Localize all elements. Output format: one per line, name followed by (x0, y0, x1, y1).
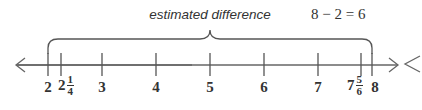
tick-label-8: 8 (371, 80, 379, 95)
brace (48, 30, 372, 54)
tick-label-5: 5 (206, 80, 214, 95)
tick-label-7-5-6: 7 56 (347, 74, 363, 97)
less-than-glyph (405, 56, 420, 72)
tick-label-2: 2 (44, 80, 52, 95)
tick-label-2-1-4: 2 14 (58, 74, 74, 97)
tick-label-3: 3 (98, 80, 106, 95)
caption-estimated-difference: estimated difference (149, 7, 271, 22)
tick-label-6: 6 (260, 80, 268, 95)
tick-label-7: 7 (314, 80, 322, 95)
tick-label-4: 4 (152, 80, 160, 95)
equation: 8 − 2 = 6 (311, 6, 365, 23)
